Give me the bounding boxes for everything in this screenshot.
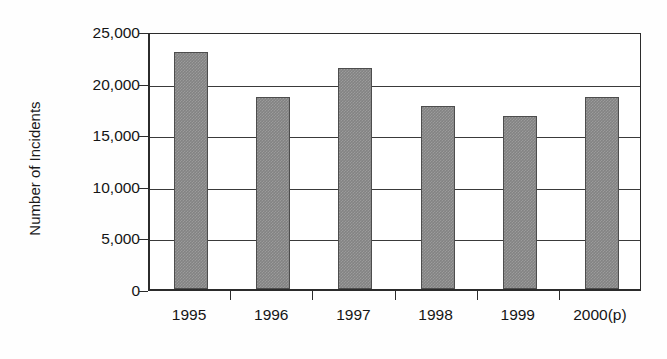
bar-chart-figure: Number of Incidents 05,00010,00015,00020… xyxy=(0,0,667,359)
x-axis-tick-label: 1996 xyxy=(254,306,288,324)
x-axis-tick-label: 1997 xyxy=(336,306,370,324)
x-axis-tick-label: 1999 xyxy=(501,306,535,324)
x-axis-tick-labels: 199519961997199819992000(p) xyxy=(0,0,667,359)
x-axis-tick-label: 1995 xyxy=(172,306,206,324)
x-axis-tick-label: 1998 xyxy=(418,306,452,324)
x-axis-tick-label: 2000(p) xyxy=(573,306,626,324)
